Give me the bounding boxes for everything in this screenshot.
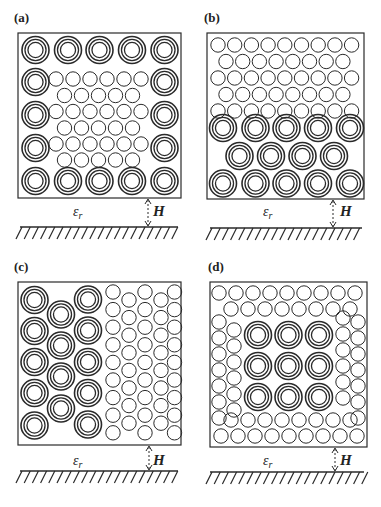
swcnt-circle [167,390,181,404]
height-arrow [332,448,338,471]
swcnt-circle [122,328,136,342]
swcnt-circle [106,338,120,352]
swcnt-circle [117,104,131,118]
swcnt-circle [328,104,342,118]
swcnt-circle [261,71,275,85]
mwcnt-rings [22,37,49,64]
swcnt-circle [134,104,148,118]
swcnt-circle [154,398,168,412]
swcnt-circle [246,286,260,300]
swcnt-circle [319,87,333,101]
swcnt-circle [108,121,122,135]
mwcnt-rings [242,115,269,142]
mwcnt-rings [151,135,178,162]
swcnt-circle [326,413,340,427]
swcnt-circle [227,371,241,385]
swcnt-circle [167,302,181,316]
swcnt-circle [282,429,296,443]
swcnt-circle [314,286,328,300]
swcnt-circle [244,38,258,52]
swcnt-circle [108,153,122,167]
swcnt-circle [336,391,350,405]
swcnt-circle [316,429,330,443]
swcnt-circle [294,104,308,118]
swcnt-circle [336,54,350,68]
swcnt-circle [241,302,255,316]
swcnt-circle [100,72,114,86]
swcnt-circle [333,429,347,443]
swcnt-circle [297,286,311,300]
swcnt-circle [138,338,152,352]
mwcnt-rings [21,318,48,345]
swcnt-circle [134,137,148,151]
mwcnt-rings [275,322,302,349]
swcnt-circle [227,339,241,353]
swcnt-circle [106,302,120,316]
swcnt-circle [125,153,139,167]
mwcnt-rings [306,322,333,349]
swcnt-circle [351,363,365,377]
swcnt-circle [167,320,181,334]
swcnt-circle [138,373,152,387]
swcnt-circle [66,137,80,151]
mwcnt-rings [151,37,178,64]
swcnt-circle [248,429,262,443]
mwcnt-rings [305,170,332,197]
swcnt-circle [74,153,88,167]
swcnt-circle [309,413,323,427]
swcnt-circle [106,355,120,369]
mwcnt-rings [48,301,75,328]
swcnt-circle [252,87,266,101]
swcnt-circle [244,104,258,118]
permittivity-label-c: εr [73,453,83,470]
mwcnt-rings [289,143,316,170]
swcnt-circle [231,429,245,443]
swcnt-circle [351,395,365,409]
swcnt-circle [74,121,88,135]
mwcnt-rings [245,322,272,349]
swcnt-circle [224,302,238,316]
mwcnt-rings [86,37,113,64]
swcnt-circle [336,343,350,357]
mwcnt-rings [119,168,146,195]
swcnt-circle [211,38,225,52]
swcnt-circle [351,411,365,425]
swcnt-circle [167,426,181,440]
panel-label-a: (a) [14,10,29,25]
swcnt-circle [302,87,316,101]
swcnt-circle [292,413,306,427]
swcnt-circle [108,88,122,102]
mwcnt-rings [75,380,102,407]
height-arrow [330,200,336,227]
swcnt-circle [138,320,152,334]
swcnt-circle [122,398,136,412]
swcnt-circle [100,137,114,151]
swcnt-circle [265,429,279,443]
swcnt-circle [344,38,358,52]
swcnt-circle [258,302,272,316]
swcnt-circle [219,87,233,101]
swcnt-circle [122,381,136,395]
swcnt-circle [212,395,226,409]
swcnt-circle [138,302,152,316]
mwcnt-rings [75,411,102,438]
swcnt-circle [311,71,325,85]
mwcnt-rings [48,363,75,390]
swcnt-circle [261,38,275,52]
mwcnt-rings [321,143,348,170]
swcnt-circle [302,54,316,68]
mwcnt-rings [55,168,82,195]
swcnt-circle [106,320,120,334]
swcnt-circle [91,88,105,102]
swcnt-circle [91,153,105,167]
mwcnt-rings [258,143,285,170]
panel-label-b: (b) [204,10,220,25]
swcnt-circle [138,285,152,299]
swcnt-circle [138,426,152,440]
swcnt-circle [66,104,80,118]
swcnt-circle [328,71,342,85]
swcnt-circle [106,390,120,404]
swcnt-circle [280,286,294,300]
swcnt-circle [269,87,283,101]
swcnt-circle [154,381,168,395]
